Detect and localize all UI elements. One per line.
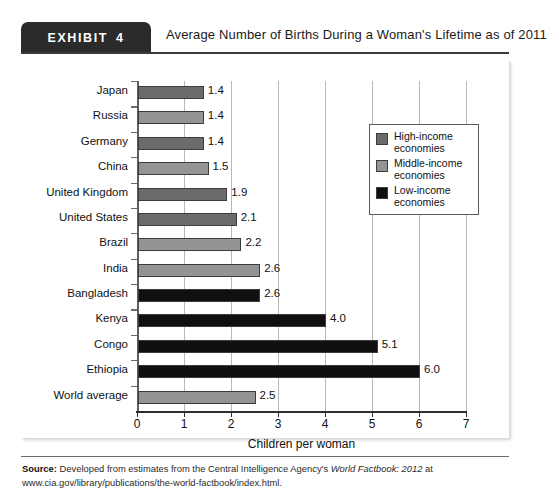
x-axis-line	[136, 411, 467, 413]
legend-swatch-low-income	[376, 187, 388, 199]
legend-label-line2: economies	[394, 197, 451, 209]
bar-value-label: 1.5	[213, 160, 229, 172]
x-tick-label: 2	[228, 417, 235, 431]
x-axis-title: Children per woman	[137, 437, 466, 451]
bar-value-label: 2.5	[260, 389, 276, 401]
chart-row: Kenya4.0	[137, 309, 466, 333]
bar-bangladesh	[138, 289, 260, 302]
category-label: Russia	[93, 109, 128, 121]
y-axis-tick	[131, 208, 137, 209]
legend-swatch-middle-income	[376, 160, 388, 172]
y-axis-tick	[131, 157, 137, 158]
x-tick-label: 6	[416, 417, 423, 431]
y-axis-tick	[131, 81, 137, 82]
category-label: Kenya	[95, 312, 128, 324]
category-label: China	[98, 160, 128, 172]
bar-kenya	[138, 314, 326, 327]
y-axis-tick	[131, 335, 137, 336]
bar-japan	[138, 86, 204, 99]
chart-legend: High-incomeeconomiesMiddle-incomeeconomi…	[369, 124, 479, 215]
y-axis-tick	[131, 360, 137, 361]
bar-china	[138, 162, 209, 175]
bar-united-kingdom	[138, 188, 227, 201]
legend-label: High-incomeeconomies	[394, 131, 453, 154]
bar-value-label: 1.4	[208, 135, 224, 147]
legend-label-line2: economies	[394, 143, 453, 155]
y-axis-tick	[131, 106, 137, 107]
category-label: India	[103, 262, 128, 274]
legend-label-line2: economies	[394, 170, 462, 182]
legend-label: Low-incomeeconomies	[394, 185, 451, 208]
legend-item-high-income: High-incomeeconomies	[376, 131, 473, 154]
chart-row: Bangladesh2.6	[137, 284, 466, 308]
source-publication-title: World Factbook: 2012	[331, 463, 423, 474]
y-axis-tick	[131, 386, 137, 387]
chart-plot-area: Japan1.4Russia1.4Germany1.4China1.5Unite…	[137, 81, 466, 411]
exhibit-badge-number: 4	[116, 31, 125, 45]
bar-value-label: 5.1	[382, 338, 398, 350]
category-label: United Kingdom	[46, 186, 128, 198]
legend-label-line1: Middle-income	[394, 158, 462, 170]
bar-brazil	[138, 238, 241, 251]
chart-row: India2.6	[137, 259, 466, 283]
bar-value-label: 1.4	[208, 84, 224, 96]
x-tick-label: 7	[463, 417, 470, 431]
bar-world-average	[138, 391, 256, 404]
category-label: Japan	[97, 84, 128, 96]
y-axis-tick	[131, 183, 137, 184]
category-label: Congo	[94, 338, 128, 350]
bar-congo	[138, 340, 378, 353]
bar-value-label: 2.2	[245, 236, 261, 248]
bar-value-label: 2.1	[241, 211, 257, 223]
x-tick-label: 0	[134, 417, 141, 431]
bar-value-label: 1.9	[231, 186, 247, 198]
bar-value-label: 4.0	[330, 312, 346, 324]
bar-value-label: 2.6	[264, 287, 280, 299]
category-label: Bangladesh	[67, 287, 128, 299]
chart-row: Congo5.1	[137, 335, 466, 359]
bar-united-states	[138, 213, 237, 226]
source-text-1: Developed from estimates from the Centra…	[57, 463, 331, 474]
category-label: Germany	[81, 135, 128, 147]
legend-item-low-income: Low-incomeeconomies	[376, 185, 473, 208]
legend-label-line1: High-income	[394, 131, 453, 143]
x-tick-label: 3	[275, 417, 282, 431]
source-label: Source:	[22, 463, 57, 474]
category-label: World average	[53, 389, 128, 401]
chart-row: Brazil2.2	[137, 233, 466, 257]
header-divider	[21, 52, 509, 54]
legend-swatch-high-income	[376, 133, 388, 145]
exhibit-badge: EXHIBIT 4	[21, 22, 151, 53]
bar-value-label: 1.4	[208, 109, 224, 121]
bar-value-label: 2.6	[264, 262, 280, 274]
source-divider	[21, 456, 509, 457]
legend-label-line1: Low-income	[394, 185, 451, 197]
y-axis-tick	[131, 132, 137, 133]
bar-ethiopia	[138, 365, 420, 378]
exhibit-badge-word: EXHIBIT	[47, 31, 108, 45]
source-note: Source: Developed from estimates from th…	[22, 462, 517, 489]
x-tick-label: 5	[369, 417, 376, 431]
y-axis-tick	[131, 284, 137, 285]
y-axis-tick	[131, 309, 137, 310]
x-tick-label: 4	[322, 417, 329, 431]
y-axis-tick	[131, 259, 137, 260]
chart-row: Japan1.4	[137, 81, 466, 105]
legend-item-middle-income: Middle-incomeeconomies	[376, 158, 473, 181]
chart-panel: Japan1.4Russia1.4Germany1.4China1.5Unite…	[21, 60, 509, 438]
category-label: Ethiopia	[86, 363, 128, 375]
chart-row: Ethiopia6.0	[137, 360, 466, 384]
chart-row: World average2.5	[137, 386, 466, 410]
bar-value-label: 6.0	[424, 363, 440, 375]
y-axis-tick	[131, 233, 137, 234]
bar-india	[138, 264, 260, 277]
bar-germany	[138, 137, 204, 150]
legend-label: Middle-incomeeconomies	[394, 158, 462, 181]
category-label: Brazil	[99, 236, 128, 248]
bar-russia	[138, 111, 204, 124]
category-label: United States	[59, 211, 128, 223]
x-tick-label: 1	[181, 417, 188, 431]
exhibit-title: Average Number of Births During a Woman'…	[166, 27, 547, 42]
